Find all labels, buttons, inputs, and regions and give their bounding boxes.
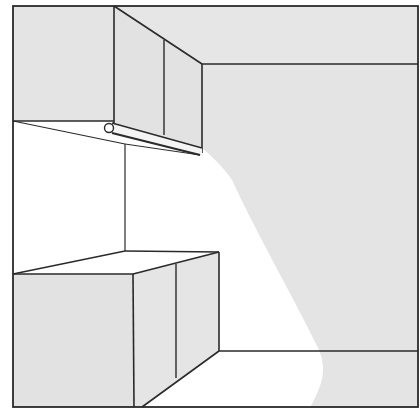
left-wall-upper	[13, 6, 114, 121]
illustration-canvas: Kitchen corner with wall cabinets, under…	[0, 0, 420, 412]
light-bulb-icon	[105, 124, 114, 133]
kitchen-illustration	[0, 0, 420, 412]
